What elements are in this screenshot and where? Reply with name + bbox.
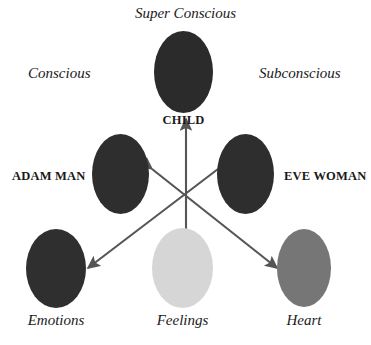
node-eve-woman-ellipse <box>217 134 274 214</box>
label-adam-man: ADAM MAN <box>12 170 85 183</box>
node-heart-ellipse <box>277 229 331 307</box>
label-heart: Heart <box>277 313 331 328</box>
node-emotions-ellipse <box>26 229 86 308</box>
bottom-caption-clipped <box>0 336 371 345</box>
node-feelings-ellipse <box>152 228 213 308</box>
node-adam-man-ellipse <box>92 134 149 214</box>
label-conscious: Conscious <box>28 66 91 81</box>
label-super-conscious: Super Conscious <box>0 6 371 21</box>
label-subconscious: Subconscious <box>259 66 341 81</box>
label-eve-woman: EVE WOMAN <box>284 170 366 183</box>
label-feelings: Feelings <box>152 313 213 328</box>
label-emotions: Emotions <box>26 313 86 328</box>
consciousness-diagram: Super Conscious Conscious Subconscious C… <box>0 0 371 345</box>
node-child-ellipse <box>154 31 213 113</box>
label-child: CHILD <box>154 114 213 127</box>
